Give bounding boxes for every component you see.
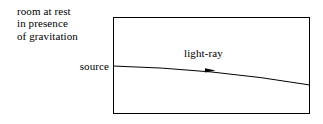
physics-figure-room-at-rest-in-gravitation: room at rest in presence of gravitation …	[0, 0, 323, 124]
light-ray-curve	[113, 66, 310, 85]
light-ray-drawing	[0, 0, 323, 124]
